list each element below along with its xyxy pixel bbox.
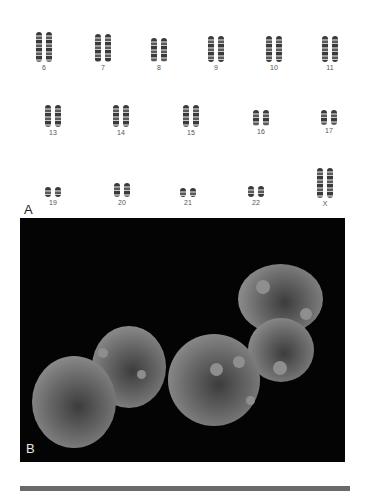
chromosome [36, 32, 42, 62]
chromosome-pair-X: X [317, 168, 333, 207]
chromosome-label: 16 [257, 128, 265, 135]
chromosome [45, 105, 51, 127]
fluorescent-spot [256, 280, 270, 294]
chromosome-pair-14: 14 [113, 105, 129, 136]
chromosome-label: 14 [117, 129, 125, 136]
chromosome-pair-15: 15 [183, 105, 199, 136]
chromosome [105, 34, 111, 62]
chromosome-label: 17 [325, 127, 333, 134]
chromosome [55, 105, 61, 127]
chromosome-label: 7 [101, 64, 105, 71]
karyotype-panel: 67891011131415161719202122X [0, 0, 367, 218]
fluorescent-spot [273, 361, 287, 375]
chromosome-pair-21: 21 [180, 188, 196, 206]
chromosome [248, 186, 254, 197]
micrograph-panel: B [20, 218, 345, 462]
chromosome-label: 9 [214, 64, 218, 71]
chromosome-pair-16: 16 [253, 110, 269, 135]
chromosome [208, 36, 214, 62]
chromosome-label: 10 [270, 64, 278, 71]
chromosome-label: 21 [184, 199, 192, 206]
chromosome-pair-11: 11 [322, 36, 338, 71]
chromosome [321, 110, 327, 125]
chromosome [124, 183, 130, 197]
chromosome [123, 105, 129, 127]
chromosome [266, 36, 272, 62]
chromosome-pair-6: 6 [36, 32, 52, 71]
chromosome [180, 188, 186, 197]
chromosome [45, 187, 51, 197]
chromosome [113, 105, 119, 127]
chromosome-label: 8 [157, 64, 161, 71]
chromosome-label: X [323, 200, 328, 207]
chromosome [151, 38, 157, 62]
cell [168, 334, 260, 426]
chromosome-label: 22 [252, 199, 260, 206]
chromosome-label: 15 [187, 129, 195, 136]
chromosome-pair-17: 17 [321, 110, 337, 134]
chromosome [193, 105, 199, 127]
fluorescent-spot [300, 308, 312, 320]
chromosome-pair-22: 22 [248, 186, 264, 206]
table-header-bar: Table 25.3 [20, 486, 350, 491]
chromosome-pair-20: 20 [114, 183, 130, 206]
fluorescent-spot [246, 396, 255, 405]
chromosome [331, 110, 337, 125]
fluorescent-spot [210, 363, 223, 376]
chromosome [317, 168, 323, 198]
chromosome [263, 110, 269, 126]
chromosome-label: 19 [49, 199, 57, 206]
chromosome [183, 105, 189, 127]
chromosome [161, 38, 167, 62]
chromosome-pair-10: 10 [266, 36, 282, 71]
chromosome [114, 183, 120, 197]
chromosome-pair-8: 8 [151, 38, 167, 71]
chromosome-pair-7: 7 [95, 34, 111, 71]
chromosome-pair-9: 9 [208, 36, 224, 71]
chromosome [253, 110, 259, 126]
chromosome [327, 168, 333, 198]
chromosome-pair-19: 19 [45, 187, 61, 206]
chromosome [218, 36, 224, 62]
chromosome [258, 186, 264, 197]
panel-a-label: A [24, 202, 33, 217]
fluorescent-spot [98, 348, 108, 358]
fluorescent-spot [233, 356, 245, 368]
chromosome-label: 20 [118, 199, 126, 206]
chromosome [332, 36, 338, 62]
chromosome [46, 32, 52, 62]
chromosome [276, 36, 282, 62]
chromosome-pair-13: 13 [45, 105, 61, 136]
chromosome [190, 188, 196, 197]
chromosome [95, 34, 101, 62]
chromosome [322, 36, 328, 62]
chromosome-label: 11 [326, 64, 333, 71]
cell [32, 356, 116, 448]
chromosome [55, 187, 61, 197]
chromosome-label: 13 [49, 129, 57, 136]
chromosome-label: 6 [42, 64, 46, 71]
fluorescent-spot [137, 370, 146, 379]
panel-b-label: B [26, 441, 35, 456]
